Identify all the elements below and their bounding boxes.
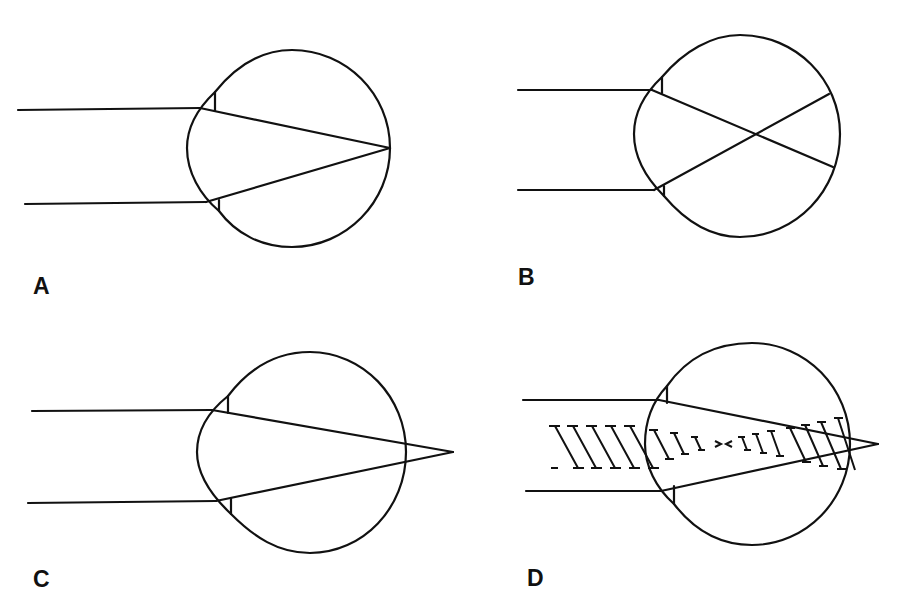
panel-b-label: B (518, 266, 535, 289)
panel-a-diagram (18, 50, 390, 247)
panel-a-ray-upper-incoming (18, 108, 200, 110)
panel-b-diagram (518, 35, 840, 237)
panel-b-ray-lower-refracted (654, 94, 829, 190)
eye-refraction-figure: A B C D (0, 0, 907, 615)
panel-c-diagram (28, 352, 453, 553)
panel-a-label: A (33, 275, 50, 298)
panel-d-hatching (549, 418, 855, 470)
panel-d-label: D (527, 567, 544, 590)
panel-c-label: C (33, 568, 50, 591)
panel-a-ray-upper-refracted (200, 108, 390, 148)
panel-b-eyeball (634, 35, 840, 237)
panel-d-diagram (523, 343, 878, 545)
panel-b-ray-upper-refracted (652, 90, 833, 167)
panel-c-ray-upper-incoming (32, 410, 212, 411)
panel-c-ray-upper-refracted (212, 410, 453, 452)
panel-d-ray-lower-refracted (661, 444, 878, 491)
panel-c-eyeball (197, 352, 406, 553)
panel-c-ray-lower-incoming (28, 501, 216, 503)
figure-canvas (0, 0, 907, 615)
panel-d-eyeball (645, 343, 850, 545)
panel-a-eyeball (187, 50, 390, 247)
panel-c-ray-lower-refracted (216, 452, 453, 501)
panel-a-ray-lower-refracted (206, 148, 390, 202)
panel-a-ray-lower-incoming (25, 202, 206, 204)
